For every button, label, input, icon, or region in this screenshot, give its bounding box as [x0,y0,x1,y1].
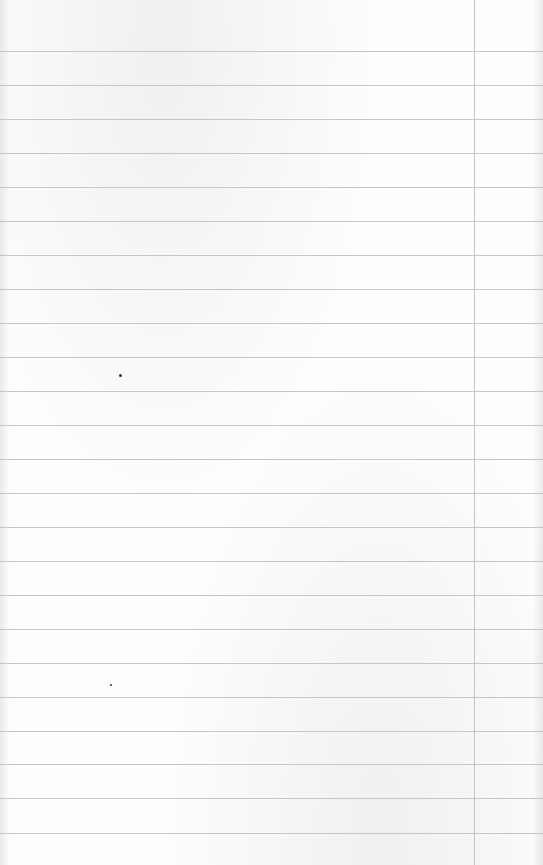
ruled-line [0,221,543,222]
lined-paper [0,0,543,865]
ruled-line [0,85,543,86]
ruled-line [0,731,543,732]
ink-speck [110,684,112,686]
ruled-line [0,663,543,664]
ruled-line [0,561,543,562]
ruled-line [0,629,543,630]
ruled-line [0,798,543,799]
ruled-line [0,51,543,52]
ruled-line [0,527,543,528]
ruled-line [0,595,543,596]
ruled-line [0,425,543,426]
ink-speck [119,374,122,377]
ruled-line [0,323,543,324]
ruled-line [0,119,543,120]
ruled-line [0,459,543,460]
margin-line [474,0,475,865]
ruled-line [0,833,543,834]
ruled-line [0,187,543,188]
ruled-line [0,391,543,392]
ruled-line [0,357,543,358]
ruled-line [0,153,543,154]
ruled-line [0,764,543,765]
ruled-line [0,493,543,494]
ruled-line [0,289,543,290]
ruled-line [0,255,543,256]
ruled-line [0,697,543,698]
